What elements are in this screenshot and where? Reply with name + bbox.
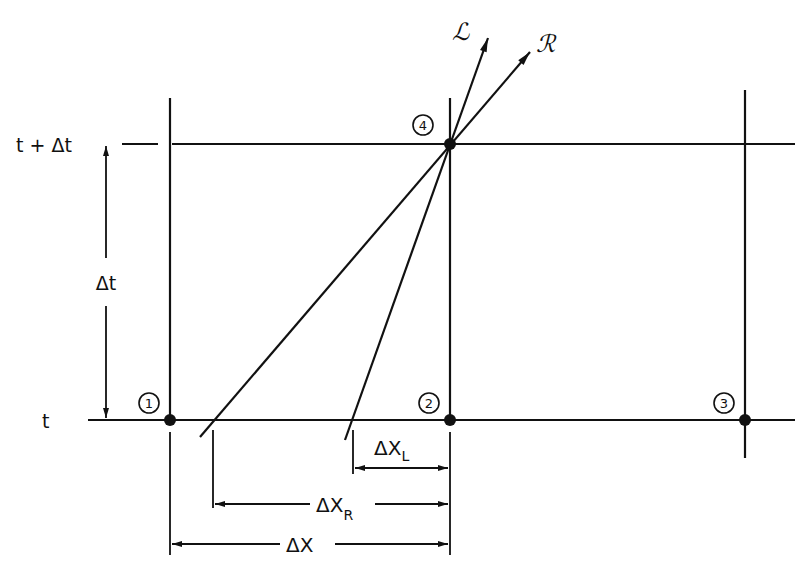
time-label-bottom: t [42,410,49,432]
node-label-1: 1 [145,396,153,411]
node-label-2: 2 [425,396,433,411]
node-dot-4 [444,138,456,150]
characteristic-left-label: ℒ [452,18,470,46]
node-label-3: 3 [720,396,728,411]
node-dot-1 [164,414,176,426]
dxr-label: ΔXR [316,493,353,523]
characteristic-left [345,38,488,440]
characteristic-right-label: ℛ [536,30,557,58]
node-dot-2 [444,414,456,426]
dxl-label: ΔXL [374,436,409,464]
dx-label: ΔX [286,533,314,557]
node-label-4: 4 [419,118,427,133]
dt-label: Δt [96,272,116,294]
time-label-top: t + Δt [16,134,72,156]
characteristic-grid-diagram: 1 2 3 4 t + Δt t Δt ℒ ℛ ΔXL ΔXR ΔX [0,0,808,567]
characteristic-right [200,52,530,437]
node-dot-3 [739,414,751,426]
